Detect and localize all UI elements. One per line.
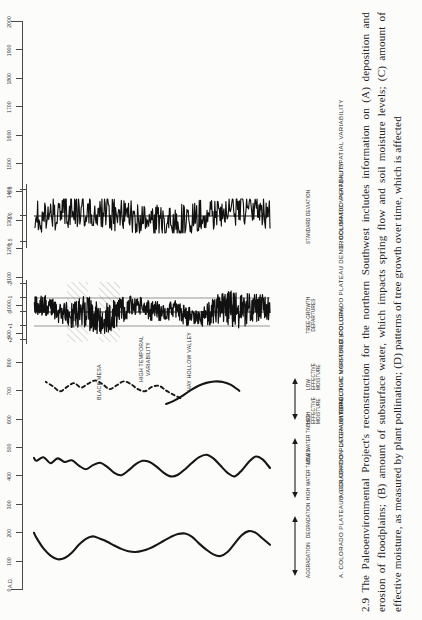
panel-b: B. COLORADO PLATEAU HYDROLOGIC VARIABILI… [34,436,270,500]
panel-e: 1.51.00.5 E. COLORADO PLATEAU SPATIAL VA… [34,184,270,248]
axis-tick-label: 800 [6,358,12,367]
panel-e-title: E. COLORADO PLATEAU SPATIAL VARIABILITY [337,99,344,248]
scale-tick-label: 0.5 [7,187,13,194]
axis-tick-label: 100 [6,557,12,566]
scale-tick-label: 1.5 [7,239,13,246]
panel-a-direction-label-high: AGGRADATION [306,542,311,578]
axis-tick [11,21,23,22]
axis-tick [16,163,23,164]
figure-area: A.D. 01002003004005006007008009001000110… [0,0,355,620]
axis-tick-label: 1700 [6,101,12,113]
panel-c: C. EFFECTIVE MOISTURE (POLLEN) HAY HOLLO… [34,358,270,422]
panel-c-direction-label-high: HIGH EFFECTIVE MOISTURE [306,394,321,424]
panel-a: A. COLORADO PLATEAU AGGRADATION-DEGRADAT… [34,514,270,578]
panel-e-axis-label: STANDARD DEVIATION [306,190,311,244]
axis-tick [16,504,23,505]
panel-d-axis-label-wrap: TREE-GROWTH DEPARTURES [296,280,310,344]
figure-caption: 2.9 The Paleoenvironmental Project's rec… [358,12,406,612]
panel-a-plot [34,514,270,578]
panel-b-plot [34,436,270,500]
axis-tick [11,589,23,590]
panel-e-plot [34,184,270,248]
panel-c-direction-label-low: LOW EFFECTIVE MOISTURE [306,360,321,390]
panel-a-direction-bar: AGGRADATION DEGRADATION [290,514,304,578]
axis-tick [16,277,23,278]
axis-tick-label: 400 [6,472,12,481]
axis-tick-label: 2000 [6,16,12,28]
scale-tick [20,297,26,298]
axis-tick [16,390,23,391]
axis-tick [16,106,23,107]
panel-d: +2+10-1-2 [34,280,270,344]
panel-b-direction-bar: HIGH WATER TABLES LOW WATER TABLES [290,436,304,500]
scale-tick [20,339,26,340]
panel-d-axis-label: TREE-GROWTH DEPARTURES [306,292,316,338]
axis-tick-label: 700 [6,387,12,396]
panel-c-direction-bar: HIGH EFFECTIVE MOISTURE LOW EFFECTIVE MO… [290,358,304,422]
axis-tick-label: 0 [6,589,12,592]
axis-tick-label: 1800 [6,73,12,85]
axis-tick [16,561,23,562]
era-label: A.D. [7,578,13,588]
scale-tick [20,311,26,312]
scale-tick [20,283,26,284]
axis-tick [16,135,23,136]
axis-tick [16,532,23,533]
axis-tick-label: 1600 [6,130,12,142]
axis-tick [16,362,23,363]
scale-tick [20,241,26,242]
scale-tick-label: 0 [7,311,13,314]
panel-d-plot [34,280,270,344]
scale-tick [20,189,26,190]
axis-tick [16,419,23,420]
axis-tick-label: 1500 [6,158,12,170]
scale-tick [20,325,26,326]
scale-tick [20,215,26,216]
axis-tick [16,248,23,249]
axis-tick-label: 200 [6,529,12,538]
axis-tick [16,475,23,476]
panel-e-scale: 1.51.00.5 [8,184,30,248]
annotation-black-mesa: BLACK MESA [96,364,102,400]
panel-c-plot [34,358,270,422]
axis-tick [16,49,23,50]
axis-tick-label: 500 [6,444,12,453]
axis-tick-label: 1900 [6,45,12,57]
axis-tick [16,78,23,79]
book-page: A.D. 01002003004005006007008009001000110… [0,0,422,620]
axis-tick [16,447,23,448]
annotation-high-temporal-variability: HIGH TEMPORAL VARIABILITY [138,328,151,390]
scale-tick-label: +1 [7,323,13,329]
scale-tick-label: -1 [7,296,13,300]
panel-e-axis-label-wrap: STANDARD DEVIATION [296,184,310,248]
panel-a-direction-label-low: DEGRADATION [306,502,311,538]
scale-tick-label: 1.0 [7,213,13,220]
figure-caption-area: 2.9 The Paleoenvironmental Project's rec… [358,12,420,612]
scale-tick-label: +2 [7,337,13,343]
panel-d-scale: +2+10-1-2 [8,280,30,344]
scale-tick-label: -2 [7,282,13,286]
axis-tick-label: 600 [6,415,12,424]
axis-tick-label: 300 [6,500,12,509]
